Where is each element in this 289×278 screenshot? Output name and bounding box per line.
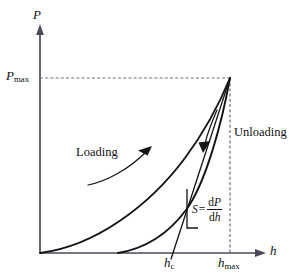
slope-annotation: S = dP dh	[192, 196, 222, 224]
figure-canvas	[0, 0, 289, 278]
slope-fraction: dP dh	[207, 196, 222, 224]
y-axis-label: P	[33, 8, 41, 21]
hc-tick-label: hc	[164, 256, 174, 271]
indentation-curve-figure: P h Pmax hc hmax Loading Unloading S = d…	[0, 0, 289, 278]
slope-numerator: dP	[207, 196, 222, 210]
axes-group	[36, 24, 266, 257]
tangent-slope-line	[171, 78, 230, 259]
x-axis-arrowhead	[255, 249, 266, 257]
slope-symbol: S	[192, 204, 198, 216]
hmax-tick-label: hmax	[218, 256, 240, 271]
loading-arrowhead	[138, 146, 152, 156]
unloading-arrowhead	[199, 141, 211, 153]
slope-denominator: dh	[208, 210, 222, 223]
slope-equals-sign: =	[199, 204, 206, 216]
curves-group	[40, 78, 230, 259]
pmax-symbol: P	[6, 68, 14, 83]
pmax-subscript: max	[14, 74, 29, 84]
x-axis-label: h	[270, 244, 277, 257]
unloading-curve	[118, 78, 230, 253]
hmax-subscript: max	[225, 261, 240, 271]
unloading-annotation-label: Unloading	[234, 126, 287, 139]
hc-subscript: c	[171, 261, 175, 271]
pmax-tick-label: Pmax	[6, 69, 29, 84]
denominator-variable: h	[215, 211, 221, 223]
y-axis-arrowhead	[36, 24, 44, 35]
numerator-variable: P	[214, 196, 221, 208]
loading-annotation-label: Loading	[76, 146, 118, 159]
